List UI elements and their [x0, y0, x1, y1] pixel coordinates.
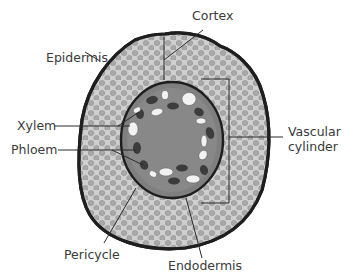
vascular-cylinder [121, 82, 223, 198]
label-endodermis: Endodermis [168, 258, 242, 273]
label-vascular-cylinder-line2: cylinder [288, 139, 338, 154]
label-pericycle: Pericycle [64, 247, 120, 262]
label-cortex: Cortex [192, 8, 233, 23]
label-epidermis: Epidermis [46, 50, 108, 65]
label-xylem: Xylem [17, 118, 56, 133]
label-vascular-cylinder-line1: Vascular [288, 124, 341, 139]
label-phloem: Phloem [11, 142, 57, 157]
